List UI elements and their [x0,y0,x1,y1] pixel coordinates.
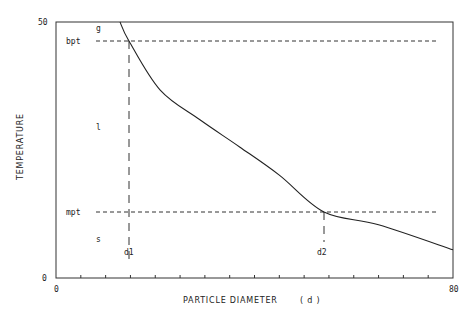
region-gas-label: g [96,24,101,33]
chart-canvas: 50 0 0 80 bpt mpt d1 d2 g l s PARTICLE D… [0,0,476,318]
region-liquid-label: l [96,123,101,132]
y-axis-title: TEMPERATURE [16,113,25,181]
d2-label: d2 [317,248,327,257]
x-axis-title: PARTICLE DIAMETER [183,296,278,305]
d1-label: d1 [124,248,134,257]
x-tick-80: 80 [449,285,459,294]
plot-frame [56,22,453,278]
bpt-label: bpt [66,37,81,46]
phase-curve [120,22,453,250]
y-tick-0: 0 [42,274,47,283]
region-solid-label: s [96,235,101,244]
x-axis-symbol: ( d ) [300,296,320,305]
x-tick-0: 0 [54,285,59,294]
y-tick-50: 50 [38,18,48,27]
mpt-label: mpt [66,208,81,217]
